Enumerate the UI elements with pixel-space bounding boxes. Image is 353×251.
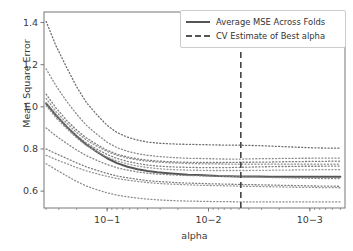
series-fold-7 <box>46 128 340 179</box>
y-tick-label: 1.0 <box>6 101 38 112</box>
x-axis-label: alpha <box>44 230 345 241</box>
legend-label-cv-alpha: CV Estimate of Best alpha <box>216 31 325 41</box>
series-fold-4 <box>46 98 340 164</box>
mse-vs-alpha-chart: Mean Square Error alpha 0.60.81.01.21.4 … <box>0 0 353 251</box>
x-tick-label: 10−3 <box>288 214 332 225</box>
legend-label-average: Average MSE Across Folds <box>216 17 325 27</box>
series-fold-6 <box>46 106 340 171</box>
y-tick-label: 1.2 <box>6 59 38 70</box>
series-fold-2 <box>46 69 340 159</box>
y-tick-label: 0.8 <box>6 143 38 154</box>
chart-legend: Average MSE Across Folds CV Estimate of … <box>180 10 346 48</box>
legend-item-cv-alpha: CV Estimate of Best alpha <box>186 29 340 43</box>
series-fold-3 <box>46 94 340 162</box>
y-axis-label: Mean Square Error <box>21 14 32 154</box>
y-tick-label: 0.6 <box>6 185 38 196</box>
legend-item-average: Average MSE Across Folds <box>186 15 340 29</box>
series-layer <box>46 21 340 201</box>
dashed-line-icon <box>186 31 210 41</box>
y-tick-label: 1.4 <box>6 17 38 28</box>
x-tick-label: 10−1 <box>85 214 129 225</box>
solid-line-icon <box>186 17 210 27</box>
x-tick-label: 10−2 <box>187 214 231 225</box>
